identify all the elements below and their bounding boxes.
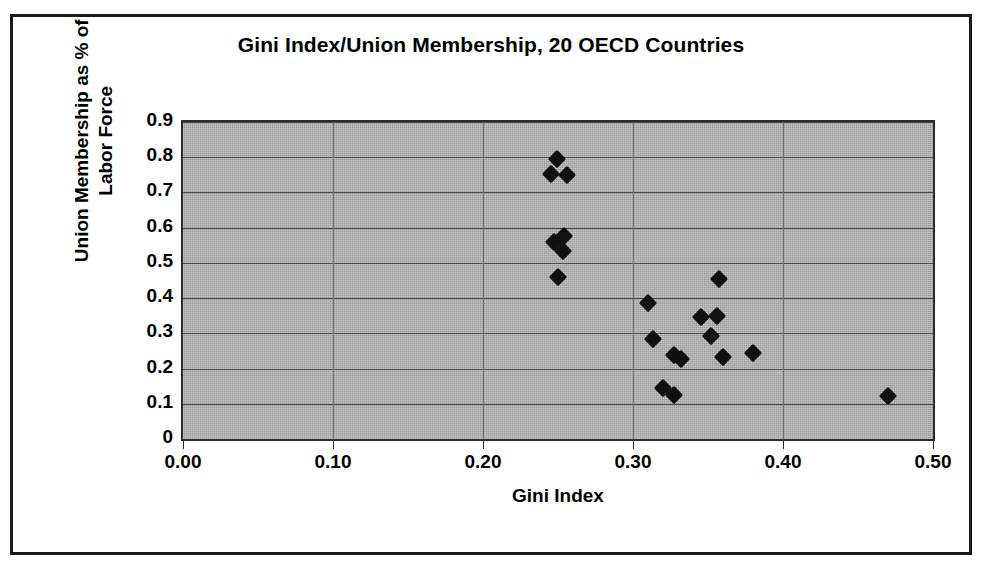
x-tick-label: 0.40 [743, 451, 823, 473]
x-tick-label: 0.30 [593, 451, 673, 473]
data-point [714, 348, 732, 366]
x-tick-mark [933, 441, 934, 449]
x-tick-mark [633, 441, 634, 449]
gridline-vertical [483, 122, 484, 439]
data-point [702, 327, 720, 345]
gridline-vertical [633, 122, 634, 439]
y-tick-label: 0.1 [113, 391, 173, 413]
gridline-horizontal [183, 263, 933, 264]
gridline-vertical [333, 122, 334, 439]
data-point [558, 166, 576, 184]
data-point [643, 329, 661, 347]
x-tick-mark [333, 441, 334, 449]
x-tick-mark [183, 441, 184, 449]
gridline-horizontal [183, 369, 933, 370]
x-tick-mark [483, 441, 484, 449]
y-tick-label: 0.6 [113, 215, 173, 237]
y-axis-ticks: 00.10.20.30.40.50.60.70.80.9 [111, 120, 173, 437]
data-point [691, 308, 709, 326]
x-tick-label: 0.10 [293, 451, 373, 473]
data-point [744, 344, 762, 362]
y-tick-label: 0.5 [113, 250, 173, 272]
chart-figure: Gini Index/Union Membership, 20 OECD Cou… [10, 14, 972, 555]
gridline-horizontal [183, 404, 933, 405]
data-point [879, 387, 897, 405]
data-point [639, 294, 657, 312]
plot-area [181, 120, 935, 441]
y-tick-label: 0 [113, 426, 173, 448]
x-axis-ticks: 0.000.100.200.300.400.50 [181, 441, 935, 481]
data-point [708, 307, 726, 325]
x-axis-label: Gini Index [181, 485, 935, 507]
y-tick-label: 0.2 [113, 356, 173, 378]
gridline-horizontal [183, 228, 933, 229]
x-tick-mark [783, 441, 784, 449]
x-tick-label: 0.20 [443, 451, 523, 473]
x-tick-label: 0.50 [893, 451, 973, 473]
y-tick-label: 0.4 [113, 285, 173, 307]
data-point [549, 268, 567, 286]
gridline-horizontal [183, 192, 933, 193]
data-point [709, 270, 727, 288]
gridline-horizontal [183, 333, 933, 334]
chart-title: Gini Index/Union Membership, 20 OECD Cou… [13, 33, 969, 57]
y-tick-label: 0.7 [113, 179, 173, 201]
x-tick-label: 0.00 [143, 451, 223, 473]
y-axis-label-line1: Union Membership as % of [71, 19, 92, 262]
y-tick-label: 0.8 [113, 144, 173, 166]
y-tick-label: 0.3 [113, 320, 173, 342]
y-tick-label: 0.9 [113, 109, 173, 131]
gridline-horizontal [183, 122, 933, 123]
gridline-horizontal [183, 298, 933, 299]
gridline-vertical [783, 122, 784, 439]
